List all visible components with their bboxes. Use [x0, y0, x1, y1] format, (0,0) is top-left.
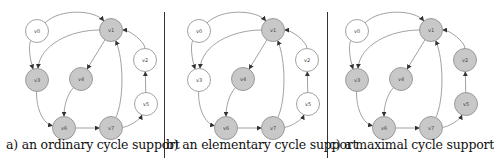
edge-v2-v1 — [285, 30, 307, 49]
svg-text:v7: v7 — [428, 125, 434, 131]
svg-text:v4: v4 — [398, 76, 404, 82]
edge-v4-v6 — [64, 88, 73, 116]
svg-text:v3: v3 — [354, 77, 360, 83]
edge-v0-v3 — [29, 41, 33, 69]
node-v2: v2 — [296, 49, 319, 72]
edge-v0-v3 — [349, 41, 353, 69]
node-v4: v4 — [232, 68, 255, 91]
edge-v2-v1 — [123, 30, 145, 49]
edge-v4-v6 — [384, 88, 393, 116]
svg-text:v5: v5 — [463, 101, 469, 107]
node-v3: v3 — [26, 69, 49, 92]
svg-text:v2: v2 — [304, 57, 310, 63]
node-v5: v5 — [135, 93, 158, 116]
edge-v0-v1 — [45, 12, 103, 23]
node-v1: v1 — [262, 19, 285, 42]
edge-v7-v1 — [278, 41, 284, 118]
edge-v4-v6 — [226, 88, 235, 116]
svg-text:v2: v2 — [142, 57, 148, 63]
edge-v0-v1 — [365, 12, 423, 23]
node-v1: v1 — [100, 19, 123, 42]
node-v3: v3 — [188, 69, 211, 92]
panel-b: v0v1v2v3v4v5v6v7 — [188, 12, 320, 139]
node-v4: v4 — [390, 68, 413, 91]
panel-c: v0v1v2v3v4v5v6v7 — [346, 12, 478, 139]
node-v2: v2 — [454, 49, 477, 72]
svg-text:v6: v6 — [61, 125, 67, 131]
node-v2: v2 — [134, 49, 157, 72]
node-v0: v0 — [188, 20, 211, 43]
edge-v0-v3 — [191, 41, 195, 69]
svg-text:v7: v7 — [108, 125, 114, 131]
edge-v1-v4 — [407, 40, 425, 69]
svg-text:v1: v1 — [270, 27, 276, 33]
edge-v3-v6 — [357, 91, 373, 125]
node-v0: v0 — [346, 20, 369, 43]
svg-text:v4: v4 — [240, 76, 246, 82]
node-v1: v1 — [420, 19, 443, 42]
edge-v7-v5 — [442, 115, 461, 127]
svg-text:v6: v6 — [223, 125, 229, 131]
svg-text:v6: v6 — [381, 125, 387, 131]
edge-v7-v5 — [284, 115, 303, 127]
svg-text:v5: v5 — [143, 101, 149, 107]
svg-text:v2: v2 — [462, 57, 468, 63]
svg-text:v1: v1 — [428, 27, 434, 33]
edge-v3-v6 — [37, 91, 53, 125]
edge-v0-v1 — [207, 12, 265, 23]
edge-v2-v1 — [443, 30, 465, 49]
edge-v7-v1 — [436, 41, 442, 118]
svg-text:v3: v3 — [196, 77, 202, 83]
node-v0: v0 — [26, 20, 49, 43]
edge-v7-v5 — [122, 115, 141, 127]
edge-v7-v1 — [116, 41, 122, 118]
edge-v3-v6 — [199, 91, 215, 125]
svg-text:v1: v1 — [108, 27, 114, 33]
edge-v1-v4 — [87, 40, 105, 69]
node-v4: v4 — [70, 68, 93, 91]
panel-a: v0v1v2v3v4v5v6v7 — [26, 12, 158, 139]
svg-text:v0: v0 — [196, 28, 202, 34]
svg-text:v0: v0 — [354, 28, 360, 34]
edge-v1-v4 — [249, 40, 267, 69]
svg-text:v3: v3 — [34, 77, 40, 83]
caption-c: c) a maximal cycle support — [329, 137, 494, 152]
node-v5: v5 — [455, 93, 478, 116]
svg-text:v4: v4 — [78, 76, 84, 82]
node-v3: v3 — [346, 69, 369, 92]
svg-text:v5: v5 — [305, 101, 311, 107]
svg-text:v7: v7 — [270, 125, 276, 131]
node-v5: v5 — [297, 93, 320, 116]
caption-a: a) an ordinary cycle support — [6, 137, 180, 152]
svg-text:v0: v0 — [34, 28, 40, 34]
